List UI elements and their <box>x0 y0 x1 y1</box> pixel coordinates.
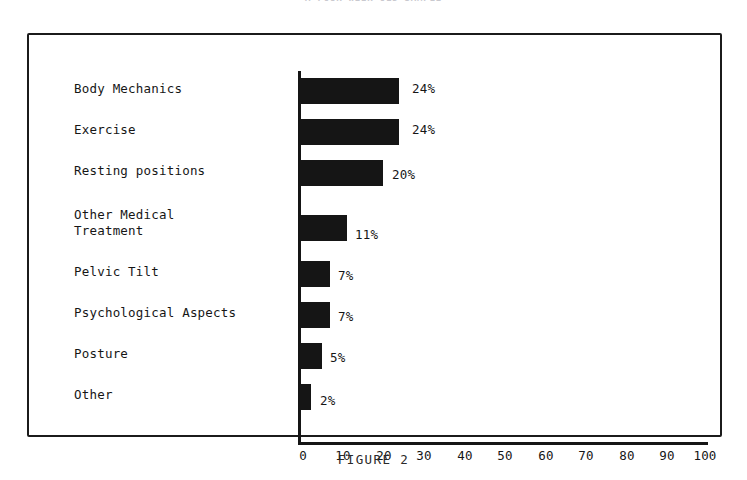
bar-category-label: Resting positions <box>74 163 292 178</box>
bar-other-medical-treatment <box>301 215 347 241</box>
bar-resting-positions <box>301 160 383 186</box>
bar-category-label: Body Mechanics <box>74 81 292 96</box>
bar-category-label: Posture <box>74 346 292 361</box>
bar-row: Exercise 24% <box>0 116 747 158</box>
bar-body-mechanics <box>301 78 399 104</box>
bar-value-label: 7% <box>338 309 353 324</box>
bar-psychological-aspects <box>301 302 330 328</box>
bar-chart: Body Mechanics 24% Exercise 24% Resting … <box>0 33 747 437</box>
clipped-page-header: A FOUR-WEEK-OLD SAMPLE <box>0 0 747 3</box>
bar-value-label: 24% <box>412 81 435 96</box>
bar-exercise <box>301 119 399 145</box>
figure-caption: FIGURE 2 <box>0 452 747 467</box>
bar-category-label: Other <box>74 387 292 402</box>
bar-category-label: Other Medical Treatment <box>74 207 292 239</box>
bar-row: Resting positions 20% <box>0 157 747 199</box>
bar-row: Body Mechanics 24% <box>0 75 747 117</box>
bar-category-label: Psychological Aspects <box>74 305 292 320</box>
bar-value-label: 11% <box>355 227 378 242</box>
bar-other <box>301 384 311 410</box>
bar-row: Other 2% <box>0 381 747 423</box>
bar-category-label: Exercise <box>74 122 292 137</box>
bar-row: Other Medical Treatment 11% <box>0 203 747 245</box>
x-axis <box>298 442 708 445</box>
bar-value-label: 7% <box>338 268 353 283</box>
bar-posture <box>301 343 322 369</box>
bar-category-label: Pelvic Tilt <box>74 264 292 279</box>
bar-value-label: 24% <box>412 122 435 137</box>
bar-row: Psychological Aspects 7% <box>0 299 747 341</box>
bar-value-label: 5% <box>330 350 345 365</box>
bar-value-label: 20% <box>392 167 415 182</box>
bar-row: Pelvic Tilt 7% <box>0 258 747 300</box>
bar-row: Posture 5% <box>0 340 747 382</box>
bar-value-label: 2% <box>320 393 335 408</box>
bar-pelvic-tilt <box>301 261 330 287</box>
